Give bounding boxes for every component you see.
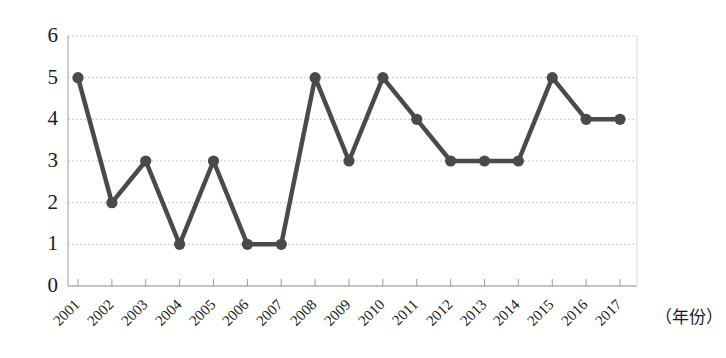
data-point [479, 155, 490, 166]
data-point [581, 114, 592, 125]
y-axis-tick-label: 5 [32, 67, 58, 88]
data-point [72, 72, 83, 83]
y-axis-tick-label: 6 [32, 25, 58, 46]
data-point [547, 72, 558, 83]
data-point [343, 155, 354, 166]
data-point [513, 155, 524, 166]
y-axis-tick-label: 4 [32, 108, 58, 129]
y-axis-tick-label: 0 [32, 275, 58, 296]
data-point [445, 155, 456, 166]
data-point [310, 72, 321, 83]
x-axis-ticks [78, 279, 620, 286]
data-point [208, 155, 219, 166]
data-point [614, 114, 625, 125]
data-point [411, 114, 422, 125]
line-chart: 0123456 20012002200320042005200620072008… [0, 0, 726, 358]
y-axis-tick-label: 1 [32, 233, 58, 254]
x-axis-title: （年份） [655, 303, 723, 328]
y-axis-tick-label: 3 [32, 150, 58, 171]
y-axis-tick-label: 2 [32, 192, 58, 213]
data-point [140, 155, 151, 166]
data-point [174, 239, 185, 250]
data-point [276, 239, 287, 250]
data-point [377, 72, 388, 83]
data-point [106, 197, 117, 208]
data-point [242, 239, 253, 250]
